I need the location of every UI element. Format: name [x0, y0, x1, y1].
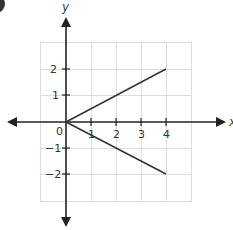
x-tick-label-4: 4	[163, 128, 170, 141]
y-tick-label-2: 2	[50, 63, 57, 76]
x-axis-left-arrow-icon	[7, 117, 17, 127]
y-tick-label-1: 1	[52, 89, 59, 102]
x-axis-right-arrow-icon	[216, 117, 226, 127]
y-tick-label-neg1: −1	[45, 142, 61, 155]
y-axis-up-arrow-icon	[61, 17, 71, 27]
y-axis-label: y	[61, 0, 70, 14]
origin-label: 0	[56, 125, 63, 138]
y-axis-down-arrow-icon	[61, 217, 71, 227]
x-axis-label: x	[228, 115, 233, 129]
corner-marker	[0, 0, 5, 13]
coordinate-plane: x 1 2 3 4 y 2 1 −1 −2 0	[0, 0, 233, 230]
y-tick-label-neg2: −2	[45, 168, 61, 181]
x-tick-label-2: 2	[113, 128, 120, 141]
x-tick-label-3: 3	[138, 128, 145, 141]
y-axis: y 2 1 −1 −2	[45, 0, 71, 227]
